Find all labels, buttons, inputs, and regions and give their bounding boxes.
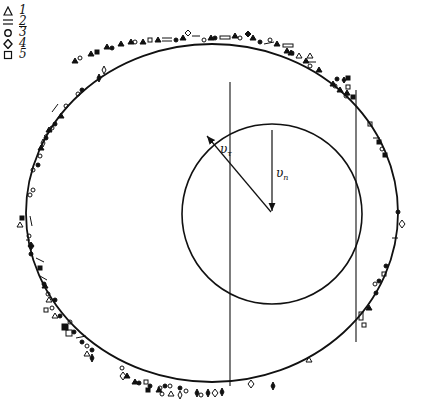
vector-subscript: τ xyxy=(227,149,231,158)
outer-ellipse xyxy=(26,44,398,382)
vector-subscript: n xyxy=(283,173,288,182)
circle-icon xyxy=(3,28,17,38)
triangle-icon xyxy=(3,6,17,16)
legend: 1 2 3 4 5 xyxy=(3,5,27,60)
diamond-icon xyxy=(3,39,17,49)
diagram-figure xyxy=(0,0,424,413)
double-dash-icon xyxy=(3,17,17,27)
tangential-velocity-label: υτ xyxy=(220,142,232,158)
legend-label: 5 xyxy=(19,49,27,60)
square-icon xyxy=(3,50,17,60)
scatter-points xyxy=(17,30,405,399)
legend-item-5: 5 xyxy=(3,49,27,60)
tangential-velocity-arrow xyxy=(207,136,271,212)
normal-velocity-label: υn xyxy=(276,166,288,182)
